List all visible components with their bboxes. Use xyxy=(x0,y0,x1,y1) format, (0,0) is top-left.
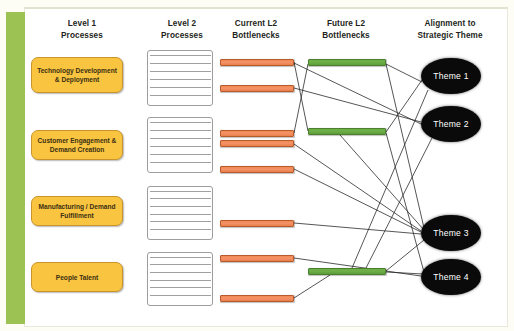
level2-row xyxy=(150,196,211,199)
level2-row xyxy=(150,143,211,146)
left-accent-bar xyxy=(6,12,25,324)
column-header-line1: Alignment to xyxy=(405,18,495,30)
level2-row xyxy=(150,120,211,123)
current-bottleneck-bar-cb6[interactable] xyxy=(220,220,294,227)
level2-row xyxy=(150,300,211,303)
level2-row xyxy=(150,255,211,258)
column-header-line1: Current L2 xyxy=(211,18,301,30)
level2-stack-stack-customer[interactable] xyxy=(147,117,213,173)
current-bottleneck-bar-cb8[interactable] xyxy=(220,295,294,302)
diagram-canvas: Level 1ProcessesLevel 2ProcessesCurrent … xyxy=(0,0,514,331)
level2-row xyxy=(150,204,211,207)
level2-row xyxy=(150,270,211,273)
column-header-alignment: Alignment toStrategic Theme xyxy=(405,18,495,41)
level2-stack-stack-people[interactable] xyxy=(147,252,213,306)
current-bottleneck-bar-cb5[interactable] xyxy=(220,166,294,173)
level2-row xyxy=(150,159,211,162)
theme-oval-theme4[interactable]: Theme 4 xyxy=(421,259,481,295)
level1-box-customer[interactable]: Customer Engagement & Demand Creation xyxy=(31,130,123,160)
level2-row xyxy=(150,234,211,237)
current-bottleneck-bar-cb4[interactable] xyxy=(220,140,294,147)
level2-stack-stack-manufacturing[interactable] xyxy=(147,186,213,240)
theme-oval-theme1[interactable]: Theme 1 xyxy=(421,58,481,94)
level2-row xyxy=(150,53,211,56)
theme-label: Theme 4 xyxy=(433,272,468,282)
level2-row xyxy=(150,167,211,170)
level2-row xyxy=(150,92,211,95)
column-header-current_l2_bottlenecks: Current L2Bottlenecks xyxy=(211,18,301,41)
level2-row xyxy=(150,189,211,192)
theme-label: Theme 1 xyxy=(433,71,468,81)
level2-row xyxy=(150,135,211,138)
column-header-line2: Processes xyxy=(37,30,127,42)
theme-label: Theme 3 xyxy=(433,228,468,238)
column-header-line1: Level 1 xyxy=(37,18,127,30)
column-header-line2: Bottlenecks xyxy=(301,30,391,42)
column-header-future_l2_bottlenecks: Future L2Bottlenecks xyxy=(301,18,391,41)
current-bottleneck-bar-cb3[interactable] xyxy=(220,130,294,137)
future-bottleneck-bar-fb1[interactable] xyxy=(308,59,386,66)
column-header-line2: Strategic Theme xyxy=(405,30,495,42)
current-bottleneck-bar-cb7[interactable] xyxy=(220,255,294,262)
theme-oval-theme3[interactable]: Theme 3 xyxy=(421,215,481,251)
level2-stack-stack-technology[interactable] xyxy=(147,50,213,106)
current-bottleneck-bar-cb2[interactable] xyxy=(220,85,294,92)
level2-row xyxy=(150,68,211,71)
level2-row xyxy=(150,262,211,265)
level2-row xyxy=(150,211,211,214)
level2-row xyxy=(150,60,211,63)
level2-row xyxy=(150,76,211,79)
level2-row xyxy=(150,84,211,87)
level2-row xyxy=(150,285,211,288)
level1-box-manufacturing[interactable]: Manufacturing / Demand Fulfillment xyxy=(31,196,123,226)
level2-row xyxy=(150,151,211,154)
level2-row xyxy=(150,293,211,296)
level2-row xyxy=(150,127,211,130)
theme-label: Theme 2 xyxy=(433,119,468,129)
theme-oval-theme2[interactable]: Theme 2 xyxy=(421,106,481,142)
column-header-level1: Level 1Processes xyxy=(37,18,127,41)
future-bottleneck-bar-fb3[interactable] xyxy=(308,268,386,275)
level1-box-technology[interactable]: Technology Development & Deployment xyxy=(31,57,123,93)
level2-row xyxy=(150,100,211,103)
level1-box-people[interactable]: People Talent xyxy=(31,262,123,292)
column-header-line2: Bottlenecks xyxy=(211,30,301,42)
level2-row xyxy=(150,219,211,222)
level2-row xyxy=(150,227,211,230)
level2-row xyxy=(150,277,211,280)
current-bottleneck-bar-cb1[interactable] xyxy=(220,59,294,66)
future-bottleneck-bar-fb2[interactable] xyxy=(308,128,386,135)
column-header-line1: Future L2 xyxy=(301,18,391,30)
